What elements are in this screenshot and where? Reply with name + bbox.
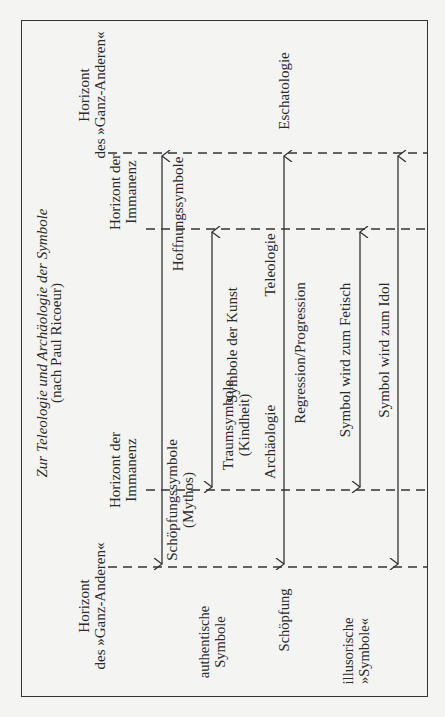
label-authentische-symbole: authentische Symbole <box>196 606 228 678</box>
title-sub: (nach Paul Ricoeur) <box>49 208 63 477</box>
title-main: Zur Teleologie und Archäologie der Symbo… <box>35 208 49 477</box>
label-eschatologie: Eschatologie <box>276 52 292 129</box>
label-bottom-horizon-ganz-anderen: Horizont des »Ganz-Anderen« <box>76 542 108 669</box>
label-regression-progression: Regression/Progression <box>292 282 308 424</box>
label-schoepfungssymbole: Schöpfungssymbole (Mythos) <box>164 439 196 561</box>
label-bottom-horizon-immanenz: Horizont der Immanenz <box>107 432 139 508</box>
label-teleologie: Teleologie <box>262 233 278 296</box>
label-traumsymbole: Traumsymbole (Kindheit) <box>220 380 252 470</box>
label-symbol-fetisch: Symbol wird zum Fetisch <box>337 283 353 438</box>
label-top-horizon-immanenz: Horizont der Immanenz <box>107 154 139 230</box>
label-illusorische-symbole: illusorische »Symbole« <box>340 618 372 685</box>
label-top-horizon-ganz-anderen: Horizont des »Ganz-Anderen« <box>76 31 108 158</box>
label-hoffnungssymbole: Hoffnungssymbole <box>170 157 186 272</box>
label-symbol-idol: Symbol wird zum Idol <box>376 282 392 417</box>
label-archaeologie: Archäologie <box>262 405 278 479</box>
label-schoepfung: Schöpfung <box>276 589 292 652</box>
diagram-title: Zur Teleologie und Archäologie der Symbo… <box>35 208 63 477</box>
